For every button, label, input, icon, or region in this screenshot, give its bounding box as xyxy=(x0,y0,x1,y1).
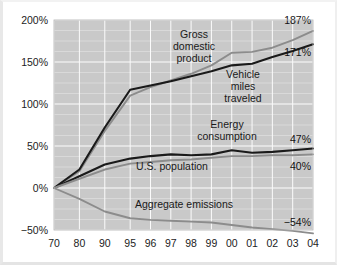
x-axis-tick-label: 97 xyxy=(165,237,177,249)
y-axis-tick-label: 50% xyxy=(27,140,48,152)
annotation-aggregate-emissions: Aggregate emissions xyxy=(135,198,233,210)
series-end-value-4: 40% xyxy=(290,160,311,172)
x-axis-tick-label: 03 xyxy=(287,237,299,249)
x-axis-tick-labels: 70809095969798990001020304 xyxy=(48,237,319,249)
y-axis-tick-label: 150% xyxy=(21,56,48,68)
y-axis-tick-label: −50% xyxy=(21,224,48,236)
x-axis-tick-label: 00 xyxy=(226,237,238,249)
x-axis-tick-label: 02 xyxy=(267,237,279,249)
y-axis-tick-label: 100% xyxy=(21,98,48,110)
x-axis-tick-label: 01 xyxy=(246,237,258,249)
series-end-value-2: 171% xyxy=(284,46,311,58)
series-end-value-3: 47% xyxy=(290,133,311,145)
x-axis-tick-label: 90 xyxy=(99,237,111,249)
x-axis-tick-label: 70 xyxy=(48,237,60,249)
chart-figure: 200%150%100%50%0%−50% 708090959697989900… xyxy=(0,0,337,265)
series-end-value-5: −54% xyxy=(284,216,311,228)
x-axis-tick-label: 95 xyxy=(124,237,136,249)
y-axis-tick-label: 200% xyxy=(21,14,48,26)
y-axis-tick-labels: 200%150%100%50%0%−50% xyxy=(21,14,48,236)
x-axis-tick-label: 99 xyxy=(206,237,218,249)
line-chart: 200%150%100%50%0%−50% 708090959697989900… xyxy=(0,0,337,265)
x-axis-tick-label: 96 xyxy=(145,237,157,249)
x-axis-tick-label: 80 xyxy=(74,237,86,249)
annotation-us-population: U.S. population xyxy=(136,160,208,172)
y-axis-tick-label: 0% xyxy=(33,182,48,194)
x-axis-tick-label: 98 xyxy=(185,237,197,249)
x-axis-tick-label: 04 xyxy=(307,237,319,249)
